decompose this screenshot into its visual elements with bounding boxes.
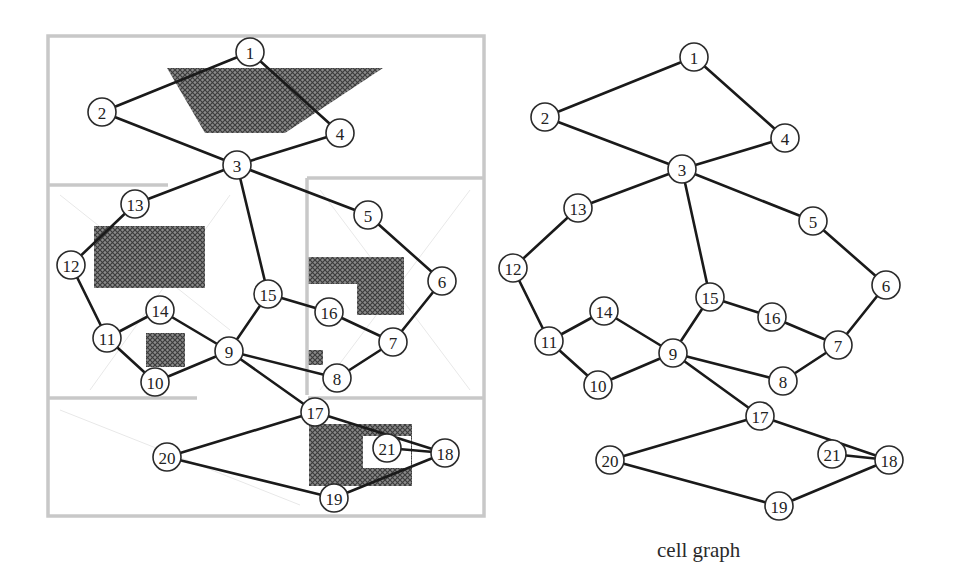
cell-decomposition-diagram: 123456789101112131415161718192021 123456… bbox=[0, 0, 953, 586]
right-edge-9-8 bbox=[673, 353, 783, 381]
node-label: 17 bbox=[752, 408, 770, 427]
node-label: 8 bbox=[779, 373, 788, 392]
node-label: 20 bbox=[159, 449, 176, 468]
left-node-18: 18 bbox=[431, 439, 459, 467]
left-node-6: 6 bbox=[428, 267, 456, 295]
right-node-1: 1 bbox=[680, 43, 708, 71]
node-label: 16 bbox=[764, 309, 781, 328]
node-label: 11 bbox=[99, 330, 115, 349]
left-edge-3-5 bbox=[237, 165, 368, 215]
left-node-13: 13 bbox=[121, 190, 149, 218]
right-edge-3-15 bbox=[682, 169, 710, 297]
node-label: 21 bbox=[824, 446, 841, 465]
node-label: 10 bbox=[147, 374, 164, 393]
node-label: 14 bbox=[596, 303, 614, 322]
node-label: 18 bbox=[881, 452, 898, 471]
left-node-10: 10 bbox=[141, 368, 169, 396]
node-label: 2 bbox=[98, 104, 107, 123]
left-node-14: 14 bbox=[146, 296, 174, 324]
obstacle-left-rectangle bbox=[94, 226, 205, 288]
node-label: 4 bbox=[336, 125, 345, 144]
node-label: 5 bbox=[809, 213, 818, 232]
node-label: 21 bbox=[379, 440, 396, 459]
left-edge-3-15 bbox=[237, 165, 268, 294]
node-label: 15 bbox=[260, 286, 277, 305]
right-node-11: 11 bbox=[535, 327, 563, 355]
right-node-14: 14 bbox=[590, 297, 618, 325]
left-node-5: 5 bbox=[354, 201, 382, 229]
left-node-4: 4 bbox=[326, 119, 354, 147]
right-edge-4-3 bbox=[682, 138, 785, 169]
right-node-7: 7 bbox=[824, 331, 852, 359]
left-node-3: 3 bbox=[223, 151, 251, 179]
left-node-12: 12 bbox=[57, 251, 85, 279]
left-node-11: 11 bbox=[93, 324, 121, 352]
right-node-16: 16 bbox=[758, 303, 786, 331]
node-label: 13 bbox=[127, 196, 144, 215]
right-graph-edges bbox=[513, 57, 889, 506]
right-node-17: 17 bbox=[746, 402, 774, 430]
node-label: 3 bbox=[678, 161, 687, 180]
right-node-10: 10 bbox=[584, 371, 612, 399]
cell-graph-caption: cell graph bbox=[657, 538, 740, 563]
left-node-17: 17 bbox=[301, 398, 329, 426]
right-edge-3-13 bbox=[578, 169, 682, 208]
right-node-3: 3 bbox=[668, 155, 696, 183]
node-label: 20 bbox=[602, 452, 619, 471]
node-label: 17 bbox=[307, 404, 325, 423]
node-label: 1 bbox=[690, 49, 699, 68]
node-label: 3 bbox=[233, 157, 242, 176]
node-label: 16 bbox=[321, 304, 338, 323]
right-node-18: 18 bbox=[875, 446, 903, 474]
node-label: 4 bbox=[781, 130, 790, 149]
node-label: 5 bbox=[364, 207, 373, 226]
right-node-2: 2 bbox=[531, 103, 559, 131]
node-label: 7 bbox=[389, 334, 398, 353]
right-node-13: 13 bbox=[564, 194, 592, 222]
node-label: 12 bbox=[63, 257, 80, 276]
right-node-6: 6 bbox=[872, 271, 900, 299]
right-node-12: 12 bbox=[499, 254, 527, 282]
right-node-21: 21 bbox=[818, 440, 846, 468]
left-node-20: 20 bbox=[153, 443, 181, 471]
left-edge-9-17 bbox=[229, 351, 315, 412]
left-edge-20-19 bbox=[167, 457, 334, 498]
left-node-7: 7 bbox=[379, 328, 407, 356]
right-edge-20-19 bbox=[610, 460, 779, 506]
obstacles bbox=[94, 68, 412, 486]
obstacle-tiny-square bbox=[308, 350, 323, 365]
left-node-16: 16 bbox=[315, 298, 343, 326]
node-label: 6 bbox=[438, 273, 447, 292]
left-node-1: 1 bbox=[236, 38, 264, 66]
decomposition-panel: 123456789101112131415161718192021 bbox=[48, 36, 484, 516]
left-node-15: 15 bbox=[254, 280, 282, 308]
node-label: 19 bbox=[326, 490, 343, 509]
right-edge-2-3 bbox=[545, 117, 682, 169]
node-label: 14 bbox=[152, 302, 170, 321]
left-node-21: 21 bbox=[373, 434, 401, 462]
node-label: 18 bbox=[437, 445, 454, 464]
node-label: 15 bbox=[702, 289, 719, 308]
node-label: 8 bbox=[333, 370, 342, 389]
obstacle-small-square bbox=[146, 333, 185, 367]
left-edge-17-20 bbox=[167, 412, 315, 457]
right-edge-1-2 bbox=[545, 57, 694, 117]
node-label: 9 bbox=[225, 343, 234, 362]
right-node-20: 20 bbox=[596, 446, 624, 474]
node-label: 1 bbox=[246, 44, 255, 63]
left-node-8: 8 bbox=[323, 364, 351, 392]
right-graph-nodes: 123456789101112131415161718192021 bbox=[499, 43, 903, 520]
right-edge-3-5 bbox=[682, 169, 813, 221]
left-edge-4-3 bbox=[237, 133, 340, 165]
right-node-8: 8 bbox=[769, 367, 797, 395]
node-label: 2 bbox=[541, 109, 550, 128]
right-edge-9-17 bbox=[673, 353, 760, 416]
node-label: 10 bbox=[590, 377, 607, 396]
left-node-19: 19 bbox=[320, 484, 348, 512]
right-node-15: 15 bbox=[696, 283, 724, 311]
node-label: 11 bbox=[541, 333, 557, 352]
left-node-9: 9 bbox=[215, 337, 243, 365]
node-label: 19 bbox=[771, 498, 788, 517]
right-node-19: 19 bbox=[765, 492, 793, 520]
left-node-2: 2 bbox=[88, 98, 116, 126]
